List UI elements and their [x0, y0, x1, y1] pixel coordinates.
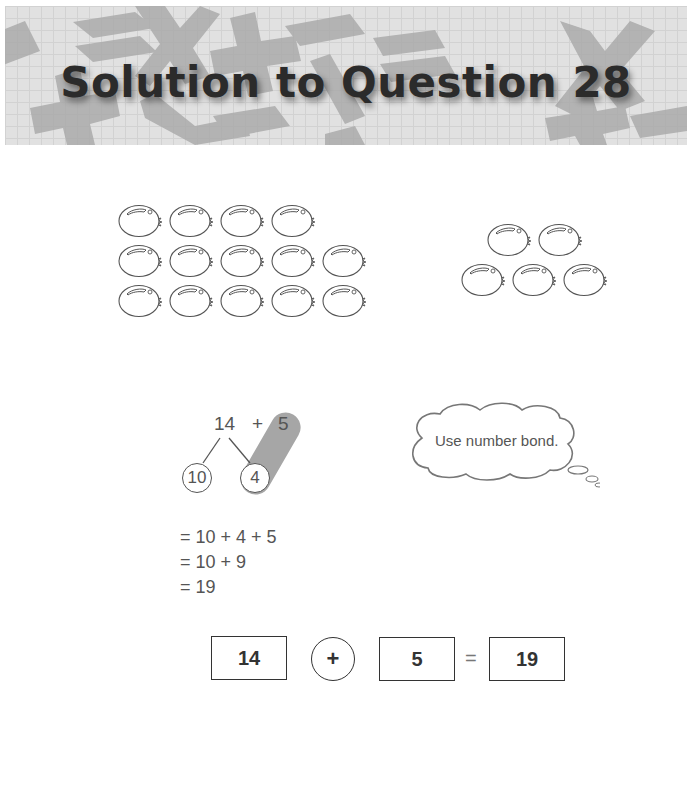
- step-3: = 19: [180, 577, 216, 598]
- bond-addend: 5: [278, 413, 289, 435]
- equation-right-box: 5: [379, 637, 455, 681]
- bond-whole: 14: [214, 413, 235, 435]
- step-1: = 10 + 4 + 5: [180, 527, 277, 548]
- thought-dot-medium: [586, 476, 598, 482]
- equation-operator-circle: +: [311, 637, 355, 681]
- step-2: = 10 + 9: [180, 552, 246, 573]
- thought-dot-large: [568, 466, 588, 474]
- bond-part-10: 10: [182, 463, 212, 493]
- thought-bubble-text: Use number bond.: [435, 432, 558, 449]
- equation-left-box: 14: [211, 636, 287, 680]
- bond-line-right: [229, 438, 250, 463]
- equals-sign: =: [465, 647, 477, 670]
- bond-operator: +: [252, 413, 263, 435]
- thought-dot-small: [595, 483, 600, 487]
- bond-line-left: [203, 438, 220, 463]
- equation-result-box: 19: [489, 637, 565, 681]
- bond-part-4: 4: [240, 463, 270, 493]
